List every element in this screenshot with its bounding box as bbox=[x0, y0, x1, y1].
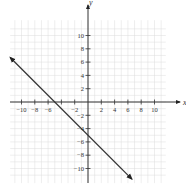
y-axis-label: y bbox=[88, 0, 93, 7]
x-tick-label: 4 bbox=[113, 106, 117, 113]
line-graph: xy −10−8−6−2246810108642−2−4−6−8−10 bbox=[0, 0, 186, 188]
y-tick-label: −10 bbox=[74, 165, 84, 172]
y-tick-label: 10 bbox=[78, 32, 85, 39]
x-tick-label: 8 bbox=[140, 106, 143, 113]
y-tick-label: 8 bbox=[81, 45, 84, 52]
axes: xy bbox=[10, 0, 186, 183]
x-axis-label: x bbox=[182, 98, 186, 107]
y-tick-label: 4 bbox=[81, 72, 85, 79]
y-tick-label: −8 bbox=[77, 151, 84, 158]
x-tick-label: 6 bbox=[126, 106, 130, 113]
y-tick-label: 2 bbox=[81, 85, 84, 92]
x-tick-label: 10 bbox=[151, 106, 158, 113]
y-tick-label: −6 bbox=[77, 138, 85, 145]
y-tick-label: −2 bbox=[77, 112, 84, 119]
x-tick-label: 2 bbox=[100, 106, 103, 113]
data-line bbox=[10, 57, 132, 179]
series-line bbox=[10, 57, 132, 179]
x-tick-label: −8 bbox=[31, 106, 38, 113]
y-tick-label: 6 bbox=[81, 58, 85, 65]
x-tick-label: −6 bbox=[45, 106, 53, 113]
x-tick-label: −10 bbox=[16, 106, 26, 113]
